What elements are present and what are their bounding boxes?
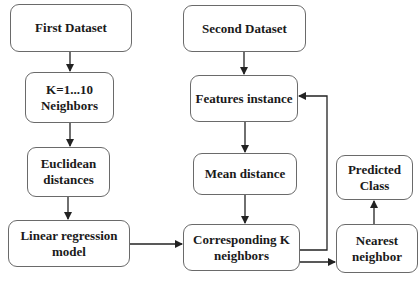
node-label: Mean distance: [205, 166, 286, 182]
node-label: First Dataset: [35, 20, 107, 36]
node-nearest-neighbor: Nearest neighbor: [336, 224, 418, 273]
node-label: Linear regression model: [11, 228, 127, 260]
node-k-neighbors: K=1...10 Neighbors: [25, 72, 114, 123]
node-label: Nearest neighbor: [339, 233, 415, 265]
node-predicted-class: Predicted Class: [336, 155, 413, 200]
node-label: Predicted Class: [339, 162, 410, 194]
node-first-dataset: First Dataset: [10, 4, 132, 52]
node-corresponding-k-neighbors: Corresponding K neighbors: [183, 224, 300, 271]
node-second-dataset: Second Dataset: [183, 5, 306, 52]
node-features-instance: Features instance: [190, 75, 298, 122]
node-label: Features instance: [196, 91, 293, 107]
node-label: Second Dataset: [202, 21, 287, 37]
node-mean-distance: Mean distance: [193, 153, 297, 195]
node-label: Euclidean distances: [30, 156, 107, 188]
arrow-corresponding-to-features: [299, 96, 327, 250]
node-label: Corresponding K neighbors: [186, 232, 297, 264]
node-linear-regression-model: Linear regression model: [8, 220, 130, 267]
node-euclidean-distances: Euclidean distances: [27, 147, 110, 197]
node-label: K=1...10 Neighbors: [28, 82, 111, 114]
